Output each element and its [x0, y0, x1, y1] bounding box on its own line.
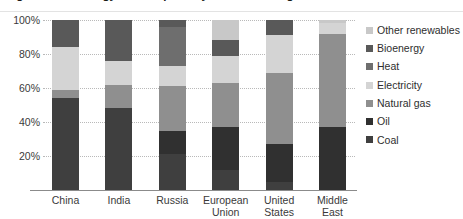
- legend-item-label: Heat: [377, 61, 399, 72]
- bar-segment-oil: [159, 131, 186, 155]
- page-title: Figure: Final energy consumption by sour…: [6, 0, 311, 1]
- legend-item-label: Coal: [377, 135, 399, 146]
- bar-segment-electricity: [52, 47, 79, 90]
- bar-segment-natural-gas: [159, 86, 186, 130]
- y-axis-tick-label: 100%: [2, 15, 40, 26]
- plot-area: [43, 20, 355, 190]
- legend-swatch-icon: [366, 136, 373, 143]
- legend-item-label: Natural gas: [377, 98, 431, 109]
- legend-item[interactable]: Natural gas: [366, 94, 463, 112]
- bar-segment-heat: [159, 27, 186, 66]
- legend-item[interactable]: Other renewables: [366, 21, 463, 39]
- legend-swatch-icon: [366, 118, 373, 125]
- bar-segment-bioenergy: [105, 20, 132, 61]
- gridline: [43, 88, 355, 89]
- legend-swatch-icon: [366, 63, 373, 70]
- bar-segment-electricity: [105, 61, 132, 85]
- title-divider: [0, 11, 463, 12]
- chart-legend: Other renewablesBioenergyHeatElectricity…: [366, 21, 463, 149]
- y-axis-tick-label: 40%: [2, 117, 40, 128]
- bar-segment-natural-gas: [266, 73, 293, 144]
- bar-segment-coal: [52, 98, 79, 190]
- gridline: [43, 54, 355, 55]
- bar-segment-natural-gas: [52, 90, 79, 99]
- y-axis-tick-label: 60%: [2, 83, 40, 94]
- bar-segment-natural-gas: [105, 85, 132, 109]
- stacked-bar: [52, 20, 79, 190]
- stacked-bar: [319, 20, 346, 190]
- legend-item-label: Other renewables: [377, 25, 460, 36]
- legend-item-label: Oil: [377, 116, 390, 127]
- bar-segment-coal: [105, 108, 132, 190]
- stacked-bar: [105, 20, 132, 190]
- bar-segment-bioenergy: [159, 20, 186, 27]
- x-axis-category-label: China: [40, 194, 91, 206]
- chart-figure: Figure: Final energy consumption by sour…: [0, 0, 463, 219]
- x-axis-category-label: European Union: [200, 194, 251, 218]
- legend-item[interactable]: Coal: [366, 131, 463, 149]
- y-axis: 20%40%60%80%100%: [0, 0, 40, 219]
- bar-segment-other-renewables: [319, 20, 346, 23]
- bar-segment-bioenergy: [266, 20, 293, 35]
- stacked-bar: [212, 20, 239, 190]
- gridline: [43, 122, 355, 123]
- legend-swatch-icon: [366, 27, 373, 34]
- bar-segment-natural-gas: [212, 83, 239, 127]
- legend-item[interactable]: Oil: [366, 112, 463, 130]
- bar-segment-electricity: [159, 66, 186, 86]
- legend-swatch-icon: [366, 82, 373, 89]
- legend-swatch-icon: [366, 100, 373, 107]
- bar-segment-other-renewables: [212, 20, 239, 40]
- legend-item[interactable]: Electricity: [366, 76, 463, 94]
- x-axis-category-label: United States: [254, 194, 305, 218]
- legend-item[interactable]: Bioenergy: [366, 39, 463, 57]
- x-axis-line: [30, 190, 357, 191]
- stacked-bar: [266, 20, 293, 190]
- bar-segment-coal: [159, 154, 186, 190]
- legend-item[interactable]: Heat: [366, 58, 463, 76]
- x-axis-category-label: Middle East: [307, 194, 358, 218]
- x-axis-category-label: Russia: [147, 194, 198, 206]
- bar-segment-coal: [266, 182, 293, 191]
- legend-swatch-icon: [366, 45, 373, 52]
- bar-segment-oil: [266, 144, 293, 181]
- stacked-bar: [159, 20, 186, 190]
- bar-segment-oil: [212, 127, 239, 170]
- y-axis-tick-label: 20%: [2, 151, 40, 162]
- chart-title-strip: Figure: Final energy consumption by sour…: [0, 0, 463, 11]
- y-axis-tick-label: 80%: [2, 49, 40, 60]
- bar-segment-bioenergy: [52, 20, 79, 47]
- legend-item-label: Electricity: [377, 80, 422, 91]
- bar-segment-coal: [212, 170, 239, 190]
- bar-segment-natural-gas: [319, 34, 346, 128]
- gridline: [43, 20, 355, 21]
- legend-item-label: Bioenergy: [377, 43, 424, 54]
- bar-segment-bioenergy: [212, 40, 239, 55]
- gridline: [43, 156, 355, 157]
- bar-segment-electricity: [319, 23, 346, 33]
- bar-segment-electricity: [266, 35, 293, 72]
- x-axis-category-label: India: [93, 194, 144, 206]
- bar-segment-electricity: [212, 56, 239, 83]
- bar-segment-oil: [319, 127, 346, 190]
